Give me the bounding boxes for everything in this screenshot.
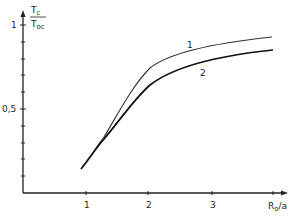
y-axis-title: Tc Toc: [30, 5, 46, 31]
y-tick-label-1: 1: [11, 20, 17, 30]
y-axis-arrow-icon: [21, 10, 26, 17]
x-tick-label-3: 3: [210, 200, 216, 210]
x-axis-title: Ro/a: [268, 201, 287, 213]
chart: 1 0,5 1 2 3 Tc Toc Ro/a 1 2: [0, 0, 297, 220]
svg-text:Tc: Tc: [30, 5, 41, 17]
curve-2-label: 2: [200, 68, 206, 78]
x-tick-label-1: 1: [84, 200, 90, 210]
curve-1-label: 1: [187, 40, 193, 50]
x-axis-arrow-icon: [281, 191, 288, 196]
curve-2: [81, 50, 273, 169]
y-tick-label-0-5: 0,5: [2, 104, 16, 114]
x-tick-label-2: 2: [146, 200, 152, 210]
svg-text:Toc: Toc: [30, 19, 45, 31]
curve-1: [81, 37, 272, 169]
